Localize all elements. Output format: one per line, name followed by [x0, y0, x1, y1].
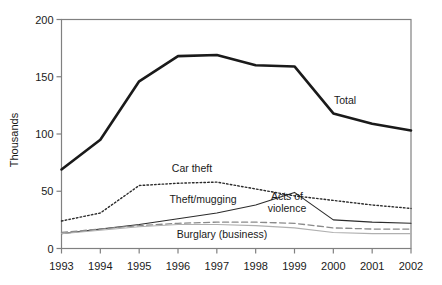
annotation-label: Burglary (business)	[177, 228, 267, 240]
x-tick-label: 1996	[166, 260, 190, 272]
y-tick-label: 150	[35, 71, 53, 83]
x-tick-label: 1997	[205, 260, 229, 272]
chart-background	[0, 0, 442, 285]
y-axis-title: Thousands	[8, 112, 20, 167]
annotation-label: Theft/mugging	[169, 193, 236, 205]
x-tick-label: 2001	[360, 260, 384, 272]
chart-canvas: 050100150200 199319941995199619971998199…	[0, 0, 442, 285]
x-tick-label: 2002	[399, 260, 423, 272]
x-tick-label: 1998	[243, 260, 267, 272]
annotation-label: Car theft	[172, 162, 212, 174]
y-tick-label: 50	[41, 185, 53, 197]
x-tick-label: 1995	[127, 260, 151, 272]
y-tick-label: 200	[35, 14, 53, 26]
y-tick-label: 0	[47, 243, 53, 255]
y-tick-label: 100	[35, 128, 53, 140]
annotation-label: Acts of	[271, 190, 303, 202]
x-tick-label: 1993	[49, 260, 73, 272]
x-tick-label: 1994	[88, 260, 112, 272]
x-tick-label: 2000	[321, 260, 345, 272]
line-chart: 050100150200 199319941995199619971998199…	[0, 0, 442, 285]
x-tick-label: 1999	[282, 260, 306, 272]
annotation-label: Total	[334, 94, 356, 106]
annotation-label: violence	[268, 202, 307, 214]
